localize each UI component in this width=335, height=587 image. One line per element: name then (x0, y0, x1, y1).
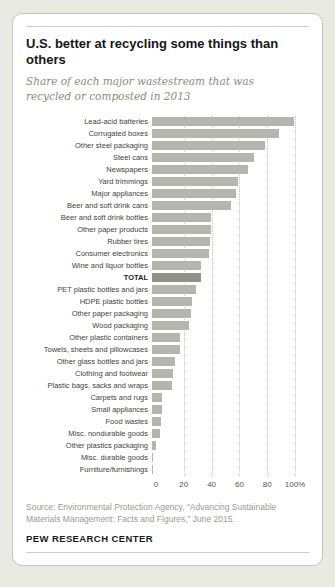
category-label: HDPE plastic bottles (26, 296, 152, 308)
chart-row: Rubber tires (26, 236, 309, 248)
x-axis-tick: 100% (285, 480, 305, 489)
bar-track (152, 429, 295, 438)
chart-row: Food wastes (26, 416, 309, 428)
category-label: Beer and soft drink cans (26, 200, 152, 212)
x-axis-tick: 20 (179, 480, 188, 489)
category-label: Steel cans (26, 152, 152, 164)
chart-row: Other plastic containers (26, 332, 309, 344)
category-label: Clothing and footwear (26, 368, 152, 380)
bar-track (152, 285, 295, 294)
bar (152, 381, 172, 390)
chart-row: Misc. nondurable goods (26, 428, 309, 440)
category-label: Food wastes (26, 416, 152, 428)
category-label: Major appliances (26, 188, 152, 200)
bar-track (152, 189, 295, 198)
bar (152, 225, 211, 234)
category-label: Wine and liquor bottles (26, 260, 152, 272)
bar (152, 237, 210, 246)
category-label: Lead-acid batteries (26, 116, 152, 128)
category-label: Beer and soft drink bottles (26, 212, 152, 224)
bar (152, 333, 180, 342)
category-label: PET plastic bottles and jars (26, 284, 152, 296)
bar (152, 165, 248, 174)
bar-track (152, 177, 295, 186)
bar-track (152, 405, 295, 414)
bar (152, 369, 173, 378)
bar-track (152, 333, 295, 342)
category-label: TOTAL (26, 272, 152, 284)
bar-track (152, 153, 295, 162)
chart-row: Yard trimmings (26, 176, 309, 188)
category-label: Misc. durable goods (26, 452, 152, 464)
category-label: Misc. nondurable goods (26, 428, 152, 440)
chart-row: Furniture/furnishings (26, 464, 309, 476)
chart-row: Beer and soft drink bottles (26, 212, 309, 224)
bar (152, 201, 231, 210)
category-label: Rubber tires (26, 236, 152, 248)
branding-label: PEW RESEARCH CENTER (26, 533, 309, 544)
x-axis-tick: 0 (154, 480, 158, 489)
bar-track (152, 261, 295, 270)
bar (152, 141, 265, 150)
x-axis-tick: 60 (235, 480, 244, 489)
bar (152, 357, 175, 366)
bar (152, 273, 201, 282)
bar-track (152, 297, 295, 306)
chart-row: Plastic bags, sacks and wraps (26, 380, 309, 392)
category-label: Corrugated boxes (26, 128, 152, 140)
bar-track (152, 345, 295, 354)
category-label: Plastic bags, sacks and wraps (26, 380, 152, 392)
chart-row: Other paper products (26, 224, 309, 236)
bar-track (152, 381, 295, 390)
page-background: { "card": { "title": "U.S. better at rec… (0, 0, 335, 587)
chart-row: Beer and soft drink cans (26, 200, 309, 212)
category-label: Towels, sheets and pillowcases (26, 344, 152, 356)
bar-track (152, 441, 295, 450)
category-label: Other glass bottles and jars (26, 356, 152, 368)
bar (152, 297, 192, 306)
chart-row: Other steel packaging (26, 140, 309, 152)
bar (152, 417, 161, 426)
bar (152, 129, 279, 138)
bar-track (152, 309, 295, 318)
chart-title: U.S. better at recycling some things tha… (26, 36, 309, 67)
x-axis: 020406080100% (156, 476, 295, 492)
category-label: Small appliances (26, 404, 152, 416)
chart-row: Wine and liquor bottles (26, 260, 309, 272)
chart-row: Lead-acid batteries (26, 116, 309, 128)
chart-row: Small appliances (26, 404, 309, 416)
bar (152, 453, 153, 462)
bar-track (152, 273, 295, 282)
bar (152, 189, 236, 198)
category-label: Wood packaging (26, 320, 152, 332)
chart-row: Misc. durable goods (26, 452, 309, 464)
bar-track (152, 321, 295, 330)
source-note: Source: Environmental Protection Agency,… (26, 501, 309, 526)
bar (152, 465, 153, 474)
bar-chart: Lead-acid batteriesCorrugated boxesOther… (26, 116, 309, 492)
bar (152, 405, 162, 414)
chart-row: Major appliances (26, 188, 309, 200)
category-label: Other plastic containers (26, 332, 152, 344)
category-label: Yard trimmings (26, 176, 152, 188)
bar-track (152, 453, 295, 462)
category-label: Furniture/furnishings (26, 464, 152, 476)
bar (152, 249, 209, 258)
x-axis-tick: 80 (263, 480, 272, 489)
chart-row: Other glass bottles and jars (26, 356, 309, 368)
bar (152, 309, 191, 318)
bar-track (152, 213, 295, 222)
bar-track (152, 237, 295, 246)
bar-track (152, 141, 295, 150)
bar (152, 321, 189, 330)
bar (152, 153, 254, 162)
bar (152, 345, 180, 354)
bar-track (152, 465, 295, 474)
x-axis-tick: 40 (207, 480, 216, 489)
chart-card: U.S. better at recycling some things tha… (12, 13, 323, 566)
bar-track (152, 201, 295, 210)
chart-row: Wood packaging (26, 320, 309, 332)
chart-rows: Lead-acid batteriesCorrugated boxesOther… (26, 116, 309, 476)
bar (152, 285, 196, 294)
chart-row: Other plastics packaging (26, 440, 309, 452)
